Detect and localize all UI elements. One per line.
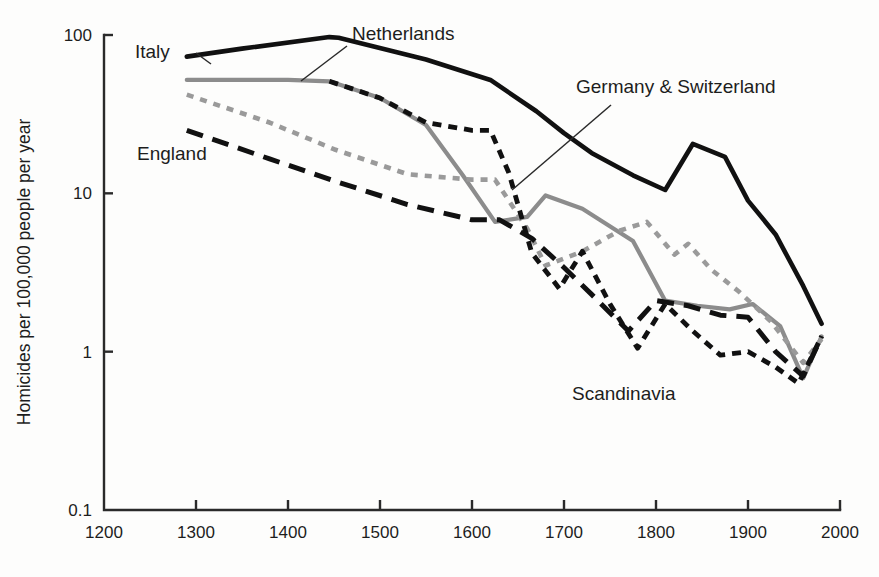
x-tick-label: 1500 — [361, 523, 399, 542]
homicide-rate-line-chart: 1001010.11200130014001500160017001800190… — [0, 0, 879, 577]
series-label-italy: Italy — [135, 41, 170, 62]
y-tick-label: 100 — [64, 26, 92, 45]
netherlands-leader — [301, 46, 347, 81]
x-tick-label: 1300 — [177, 523, 215, 542]
x-tick-label: 1200 — [85, 523, 123, 542]
x-tick-label: 1900 — [729, 523, 767, 542]
y-axis-title: Homicides per 100,000 people per year — [14, 119, 34, 426]
axis-tick-labels: 1001010.11200130014001500160017001800190… — [64, 26, 859, 542]
y-tick-label: 0.1 — [68, 501, 92, 520]
series-label-netherlands: Netherlands — [352, 23, 454, 44]
germany-leader — [512, 105, 611, 190]
chart-figure: 1001010.11200130014001500160017001800190… — [0, 0, 879, 577]
series-line-germany-switzerland — [187, 95, 822, 363]
y-axis-title-text: Homicides per 100,000 people per year — [14, 119, 34, 426]
series-line-scandinavia — [329, 81, 821, 383]
x-tick-label: 1800 — [637, 523, 675, 542]
x-tick-label: 1600 — [453, 523, 491, 542]
x-tick-label: 1400 — [269, 523, 307, 542]
series-label-germany-switzerland: Germany & Switzerland — [576, 76, 776, 97]
series-label-england: England — [137, 143, 207, 164]
x-tick-label: 2000 — [821, 523, 859, 542]
y-tick-label: 1 — [83, 343, 92, 362]
series-label-scandinavia: Scandinavia — [572, 383, 676, 404]
series-line-netherlands — [187, 80, 822, 378]
y-tick-label: 10 — [73, 184, 92, 203]
x-tick-label: 1700 — [545, 523, 583, 542]
